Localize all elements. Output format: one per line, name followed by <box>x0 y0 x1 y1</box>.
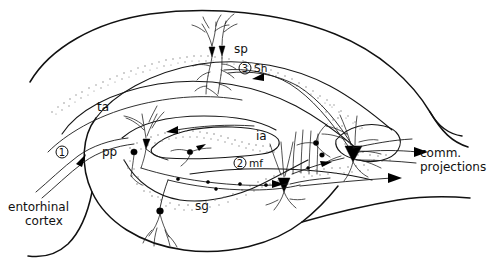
label-ta: ta <box>97 100 109 114</box>
neuron-soma-icon <box>187 149 193 154</box>
label-sh: Sh <box>254 62 267 74</box>
diagram-canvas: sp 3 Sh ta 1 pp ia 2 mf sg entorhinal co… <box>0 0 495 266</box>
pathway-number-1: 1 <box>59 147 65 158</box>
label-entorhinal-line2: cortex <box>25 214 63 228</box>
label-mf: mf <box>249 157 263 169</box>
neuron-soma-icon <box>320 153 325 157</box>
mossy-bouton <box>215 188 218 191</box>
label-comm-line2: projections <box>420 160 486 174</box>
mossy-bouton <box>238 182 241 185</box>
synapse-bouton <box>307 167 310 170</box>
label-sp: sp <box>234 42 248 56</box>
label-sg: sg <box>195 199 209 213</box>
label-comm-line1: comm. <box>420 146 461 160</box>
pathway-marker-2: 2 mf <box>234 157 263 169</box>
label-ia: ia <box>256 129 267 143</box>
mossy-bouton <box>206 180 209 183</box>
hippocampus-circuit-figure: sp 3 Sh ta 1 pp ia 2 mf sg entorhinal co… <box>0 0 495 266</box>
pathway-number-3: 3 <box>242 63 248 74</box>
pathway-marker-3: 3 Sh <box>239 62 267 74</box>
label-pp: pp <box>102 145 117 159</box>
neuron-soma-icon <box>131 149 137 155</box>
neuron-soma-icon <box>157 208 164 214</box>
mossy-bouton <box>264 183 267 186</box>
mossy-bouton <box>176 177 179 180</box>
label-entorhinal-line1: entorhinal <box>8 200 69 214</box>
pathway-number-2: 2 <box>237 158 243 169</box>
